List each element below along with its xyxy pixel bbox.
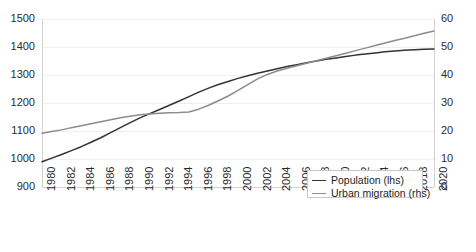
- x-axis-tick: 1986: [105, 167, 116, 191]
- legend-swatch-urban-migration: [312, 193, 326, 194]
- y-axis-left-tick: 1500: [0, 13, 35, 24]
- legend-item-population: Population (lhs): [312, 174, 418, 186]
- x-axis-tick: 1982: [66, 167, 77, 191]
- x-axis-tick: 2004: [281, 167, 292, 191]
- y-axis-left-tick: 1000: [0, 153, 35, 164]
- y-axis-right-tick: 60: [441, 13, 473, 24]
- gridlines: [42, 19, 434, 187]
- x-axis-tick: 1992: [164, 167, 175, 191]
- x-axis-tick: 1988: [124, 167, 135, 191]
- x-axis-tick: 2000: [242, 167, 253, 191]
- y-axis-right-tick: 20: [441, 125, 473, 136]
- x-axis-tick: 1990: [144, 167, 155, 191]
- legend-label-population: Population (lhs): [331, 175, 404, 186]
- legend-label-urban-migration: Urban migration (rhs): [331, 188, 430, 199]
- legend-swatch-population: [312, 180, 326, 181]
- legend-item-urban-migration: Urban migration (rhs): [312, 187, 418, 199]
- line-chart: 150014001300120011001000900 605040302010…: [0, 0, 476, 252]
- x-axis-tick: 2020: [438, 167, 449, 191]
- x-axis-tick: 1994: [183, 167, 194, 191]
- y-axis-right-tick: 30: [441, 97, 473, 108]
- x-axis-tick: 1980: [46, 167, 57, 191]
- y-axis-right-tick: 40: [441, 69, 473, 80]
- y-axis-left-tick: 900: [0, 181, 35, 192]
- y-axis-left-tick: 1200: [0, 97, 35, 108]
- y-axis-left-tick: 1300: [0, 69, 35, 80]
- y-axis-right-tick: 10: [441, 153, 473, 164]
- plot-area: [0, 0, 476, 252]
- y-axis-left-tick: 1100: [0, 125, 35, 136]
- legend: Population (lhs) Urban migration (rhs): [307, 170, 423, 198]
- x-axis-tick: 1998: [222, 167, 233, 191]
- y-axis-left-tick: 1400: [0, 41, 35, 52]
- series-paths: [42, 31, 434, 162]
- x-axis-tick: 2002: [262, 167, 273, 191]
- y-axis-right-tick: 50: [441, 41, 473, 52]
- x-axis-tick: 1996: [203, 167, 214, 191]
- x-axis-tick: 1984: [85, 167, 96, 191]
